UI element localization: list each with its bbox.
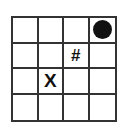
- cell-3-1[interactable]: [39, 95, 65, 121]
- cell-0-1[interactable]: [39, 18, 65, 44]
- cell-3-0[interactable]: [13, 95, 39, 121]
- cell-1-3[interactable]: [90, 44, 116, 70]
- cell-1-2[interactable]: #: [64, 44, 90, 70]
- cell-0-2[interactable]: [64, 18, 90, 44]
- game-board: # X: [11, 16, 117, 122]
- x-mark: X: [44, 71, 57, 90]
- circle-piece-icon: [93, 20, 112, 39]
- cell-2-2[interactable]: [64, 69, 90, 95]
- cell-1-0[interactable]: [13, 44, 39, 70]
- cell-2-0[interactable]: [13, 69, 39, 95]
- cell-2-1[interactable]: X: [39, 69, 65, 95]
- cell-2-3[interactable]: [90, 69, 116, 95]
- hash-mark: #: [71, 47, 80, 64]
- cell-0-0[interactable]: [13, 18, 39, 44]
- cell-0-3[interactable]: [90, 18, 116, 44]
- cell-3-2[interactable]: [64, 95, 90, 121]
- cell-1-1[interactable]: [39, 44, 65, 70]
- cell-3-3[interactable]: [90, 95, 116, 121]
